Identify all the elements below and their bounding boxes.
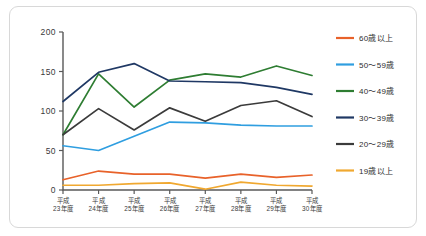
legend-label-60歳以上: 60歳以上 [359, 33, 393, 43]
series-line-20〜29歳 [63, 101, 312, 135]
chart-legend: 60歳以上50〜59歳40〜49歳30〜39歳20〜29歳19歳以上 [336, 33, 395, 176]
legend-label-19歳以上: 19歳以上 [359, 166, 393, 176]
y-tick-label: 100 [41, 106, 56, 116]
x-tick-label: 平成23年度 [53, 196, 74, 213]
x-tick-label: 平成28年度 [231, 196, 252, 213]
x-tick-label: 平成29年度 [266, 196, 287, 213]
legend-label-40〜49歳: 40〜49歳 [359, 86, 395, 96]
y-tick-label: 200 [41, 27, 56, 37]
legend-label-30〜39歳: 30〜39歳 [359, 113, 395, 123]
y-tick-label: 50 [46, 146, 56, 156]
axis-spine [63, 32, 312, 190]
chart-axes [63, 32, 312, 190]
series-line-30〜39歳 [63, 64, 312, 102]
chart-series [63, 64, 312, 190]
line-chart: 050100150200 平成23年度平成24年度平成25年度平成26年度平成2… [0, 0, 426, 236]
x-tick-label: 平成26年度 [160, 196, 181, 213]
legend-label-20〜29歳: 20〜29歳 [359, 139, 395, 149]
x-tick-label: 平成27年度 [195, 196, 216, 213]
series-line-19歳以上 [63, 182, 312, 189]
series-line-60歳以上 [63, 171, 312, 180]
x-tick-label: 平成30年度 [302, 196, 323, 213]
chart-figure: 050100150200 平成23年度平成24年度平成25年度平成26年度平成2… [0, 0, 426, 236]
y-tick-label: 150 [41, 67, 56, 77]
x-tick-label: 平成25年度 [124, 196, 145, 213]
y-axis-ticks: 050100150200 [41, 27, 63, 195]
legend-label-50〜59歳: 50〜59歳 [359, 60, 395, 70]
x-tick-label: 平成24年度 [89, 196, 110, 213]
y-tick-label: 0 [51, 185, 56, 195]
x-axis-ticks: 平成23年度平成24年度平成25年度平成26年度平成27年度平成28年度平成29… [53, 190, 323, 213]
series-line-50〜59歳 [63, 122, 312, 150]
